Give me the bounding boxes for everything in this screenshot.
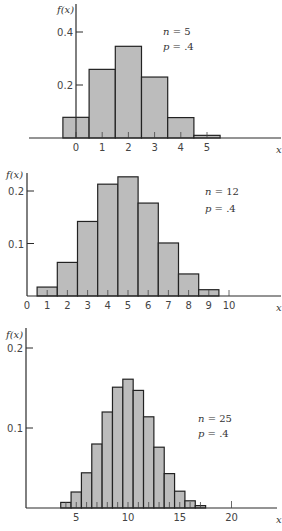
param-p-label: p = .4 bbox=[205, 203, 236, 214]
x-tick-label: 8 bbox=[185, 300, 191, 311]
x-tick-label: 15 bbox=[173, 512, 186, 523]
x-tick-label: 20 bbox=[225, 512, 238, 523]
x-axis-label: x bbox=[276, 514, 282, 525]
x-tick-label: 7 bbox=[165, 300, 171, 311]
param-p-label: p = .4 bbox=[163, 41, 194, 52]
y-axis-label: f(x) bbox=[5, 169, 23, 180]
param-n-label: n = 25 bbox=[198, 413, 232, 424]
y-tick-label: 0.2 bbox=[57, 80, 73, 91]
histogram-n12: 0.10.2012345678910f(x)xn = 12p = .4 bbox=[0, 160, 282, 320]
histogram-n5: 0.20.4012345f(x)xn = 5p = .4 bbox=[0, 0, 282, 160]
param-n-label: n = 12 bbox=[205, 186, 239, 197]
bar-x-12 bbox=[144, 417, 154, 508]
x-tick-label: 1 bbox=[99, 142, 105, 153]
x-axis-label: x bbox=[276, 144, 282, 155]
x-tick-label: 4 bbox=[105, 300, 111, 311]
histogram-n25: 0.10.25101520f(x)xn = 25p = .4 bbox=[0, 320, 282, 531]
x-tick-label: 3 bbox=[84, 300, 90, 311]
x-tick-label: 3 bbox=[151, 142, 157, 153]
x-tick-label: 10 bbox=[122, 512, 135, 523]
y-tick-label: 0.2 bbox=[7, 343, 23, 354]
bar-x-9 bbox=[112, 387, 122, 508]
bar-x-5 bbox=[118, 177, 138, 296]
param-p-label: p = .4 bbox=[198, 428, 229, 439]
bar-x-3 bbox=[78, 221, 98, 296]
bar-x-10 bbox=[123, 379, 133, 508]
x-tick-label: 6 bbox=[145, 300, 151, 311]
x-tick-label: 5 bbox=[204, 142, 210, 153]
bar-x-1 bbox=[89, 69, 115, 138]
x-tick-label: 10 bbox=[223, 300, 236, 311]
bar-x-2 bbox=[115, 46, 141, 138]
bar-x-3 bbox=[142, 77, 168, 138]
x-tick-label: 9 bbox=[206, 300, 212, 311]
x-tick-label: 0 bbox=[73, 142, 79, 153]
bar-x-13 bbox=[154, 447, 164, 508]
x-tick-label: 5 bbox=[73, 512, 79, 523]
x-tick-label: 2 bbox=[125, 142, 131, 153]
bar-x-11 bbox=[133, 390, 143, 508]
bar-x-8 bbox=[102, 412, 112, 508]
bar-x-7 bbox=[92, 444, 102, 508]
y-tick-label: 0.4 bbox=[57, 27, 73, 38]
x-tick-label: 2 bbox=[64, 300, 70, 311]
x-tick-label: 4 bbox=[178, 142, 184, 153]
bar-x-7 bbox=[158, 243, 178, 296]
y-tick-label: 0.2 bbox=[8, 186, 24, 197]
x-tick-label: 5 bbox=[125, 300, 131, 311]
x-tick-label: 1 bbox=[44, 300, 50, 311]
y-tick-label: 0.1 bbox=[8, 239, 24, 250]
x-axis-label: x bbox=[276, 302, 282, 313]
y-axis-label: f(x) bbox=[5, 329, 23, 340]
bar-x-4 bbox=[98, 184, 118, 296]
param-n-label: n = 5 bbox=[163, 26, 191, 37]
y-tick-label: 0.1 bbox=[7, 423, 23, 434]
bar-x-6 bbox=[138, 203, 158, 296]
y-axis-label: f(x) bbox=[56, 4, 74, 15]
x-tick-label: 0 bbox=[24, 300, 30, 311]
